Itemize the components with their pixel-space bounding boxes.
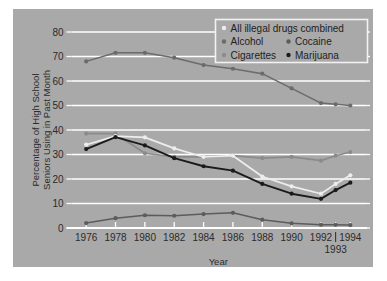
data-point-marijuana-1992 [319, 197, 323, 201]
data-point-cocaine-1988 [260, 218, 264, 222]
x-tick-label-1994: 1994 [339, 232, 362, 243]
legend-label-alcohol: Alcohol [231, 36, 264, 47]
x-tick-label-1984: 1984 [192, 232, 215, 243]
x-axis-title: Year [209, 256, 228, 267]
x-tick-label-1986: 1986 [222, 232, 245, 243]
data-point-marijuana-1988 [260, 182, 264, 186]
chart-legend: All illegal drugs combinedAlcoholCocaine… [216, 20, 368, 63]
y-tick-label-30: 30 [52, 149, 64, 160]
data-point-all-illegal-drugs-combined-1984 [201, 155, 205, 159]
data-point-alcohol-1994 [348, 103, 352, 107]
x-axis: 1976197819801982198419861988199019921994… [67, 222, 368, 267]
data-point-cocaine-1980 [143, 213, 147, 217]
x-tick-label-1988: 1988 [251, 232, 274, 243]
y-tick-label-80: 80 [52, 27, 64, 38]
legend-marker-marijuana [286, 53, 290, 57]
data-point-marijuana-1982 [172, 156, 176, 160]
legend-marker-cocaine [286, 39, 290, 43]
x-tick-label-1993: 1993 [325, 244, 348, 255]
data-point-marijuana-1976 [84, 147, 88, 151]
y-tick-label-0: 0 [58, 223, 64, 234]
data-point-alcohol-1984 [201, 63, 205, 67]
y-tick-label-20: 20 [52, 174, 64, 185]
data-point-alcohol-1990 [290, 86, 294, 90]
chart-canvas: 0102030405060708019761978198019821984198… [0, 0, 387, 281]
data-point-cocaine-1990 [290, 221, 294, 225]
legend-marker-all-illegal-drugs-combined [222, 26, 226, 30]
data-point-cocaine-1976 [84, 221, 88, 225]
data-point-all-illegal-drugs-combined-1990 [290, 184, 294, 188]
data-point-cigarettes-1993 [334, 154, 338, 158]
series-line-all-illegal-drugs-combined [86, 136, 350, 194]
data-point-cigarettes-1990 [290, 155, 294, 159]
x-tick-label-1982: 1982 [163, 232, 186, 243]
data-point-cocaine-1992 [319, 223, 323, 227]
data-point-alcohol-1993 [334, 102, 338, 106]
x-tick-label-1992: 1992 [310, 232, 333, 243]
line-chart: 0102030405060708019761978198019821984198… [0, 0, 387, 281]
chart-figure: 0102030405060708019761978198019821984198… [0, 0, 387, 281]
legend-label-marijuana: Marijuana [295, 50, 339, 61]
data-point-cigarettes-1994 [348, 150, 352, 154]
data-point-alcohol-1992 [319, 101, 323, 105]
series-line-marijuana [86, 137, 350, 199]
data-point-alcohol-1978 [113, 51, 117, 55]
y-tick-label-10: 10 [52, 198, 64, 209]
x-tick-label-1978: 1978 [104, 232, 127, 243]
data-point-cocaine-1984 [201, 212, 205, 216]
y-axis-title-line2: Seniors Using in Past Month [41, 70, 52, 190]
data-point-all-illegal-drugs-combined-1988 [260, 174, 264, 178]
series-all-illegal-drugs-combined [84, 134, 352, 196]
y-tick-label-40: 40 [52, 125, 64, 136]
legend-marker-alcohol [222, 39, 226, 43]
data-point-marijuana-1986 [231, 169, 235, 173]
y-tick-label-50: 50 [52, 100, 64, 111]
data-point-cocaine-1993 [334, 223, 338, 227]
data-point-all-illegal-drugs-combined-1982 [172, 146, 176, 150]
data-point-all-illegal-drugs-combined-1976 [84, 143, 88, 147]
data-point-all-illegal-drugs-combined-1992 [319, 192, 323, 196]
y-tick-label-70: 70 [52, 51, 64, 62]
data-point-cigarettes-1976 [84, 132, 88, 136]
data-point-all-illegal-drugs-combined-1980 [143, 135, 147, 139]
y-axis-title: Percentage of High SchoolSeniors Using i… [30, 70, 52, 190]
legend-label-all-illegal-drugs-combined: All illegal drugs combined [231, 23, 344, 34]
legend-label-cocaine: Cocaine [295, 36, 332, 47]
data-point-cocaine-1982 [172, 214, 176, 218]
x-tick-label-1976: 1976 [75, 232, 98, 243]
series-cocaine [84, 211, 352, 227]
series-line-cocaine [86, 213, 350, 225]
x-tick-label-1980: 1980 [134, 232, 157, 243]
data-point-all-illegal-drugs-combined-1993 [334, 182, 338, 186]
data-point-alcohol-1980 [143, 51, 147, 55]
data-point-all-illegal-drugs-combined-1994 [348, 173, 352, 177]
data-point-marijuana-1980 [143, 143, 147, 147]
data-point-cocaine-1978 [113, 216, 117, 220]
data-point-marijuana-1994 [348, 181, 352, 185]
data-point-alcohol-1982 [172, 56, 176, 60]
legend-label-cigarettes: Cigarettes [231, 50, 277, 61]
data-point-cigarettes-1988 [260, 156, 264, 160]
data-point-cigarettes-1992 [319, 159, 323, 163]
data-point-cocaine-1986 [231, 211, 235, 215]
y-tick-label-60: 60 [52, 76, 64, 87]
data-point-marijuana-1978 [113, 135, 117, 139]
legend-marker-cigarettes [222, 53, 226, 57]
data-point-alcohol-1976 [84, 59, 88, 63]
data-point-alcohol-1988 [260, 72, 264, 76]
y-axis-title-line1: Percentage of High School [30, 73, 41, 186]
data-point-alcohol-1986 [231, 67, 235, 71]
x-tick-label-1990: 1990 [281, 232, 304, 243]
data-point-marijuana-1990 [290, 192, 294, 196]
data-point-cigarettes-1980 [143, 151, 147, 155]
data-point-marijuana-1984 [201, 164, 205, 168]
data-point-marijuana-1993 [334, 188, 338, 192]
data-point-cocaine-1994 [348, 223, 352, 227]
data-point-all-illegal-drugs-combined-1986 [231, 154, 235, 158]
